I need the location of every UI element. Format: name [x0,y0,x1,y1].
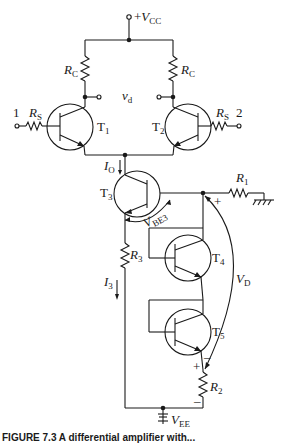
svg-text:RS: RS [28,105,42,122]
svg-text:–: – [203,349,211,364]
current-io: IO [103,158,122,175]
figure-caption: FIGURE 7.3 A differential amplifier with… [2,432,195,443]
svg-text:IO: IO [103,158,115,175]
input-1-label: 1 [13,105,20,120]
svg-text:+VCC: +VCC [134,9,161,26]
input-2-label: 2 [236,105,243,120]
svg-text:T1: T1 [97,119,109,136]
transistor-t2: T2 [152,97,211,155]
resistor-r3: R3 [121,213,143,408]
svg-text:R1: R1 [235,170,248,187]
transistor-t1: T1 [47,97,109,155]
svg-text:T2: T2 [152,119,164,136]
svg-text:+: + [193,359,200,374]
resistor-rc-right: RC [169,40,195,97]
resistor-rc-left: RC [63,40,89,97]
svg-text:I3: I3 [103,274,113,291]
voltage-vd: + VD – [203,194,251,369]
svg-text:R2: R2 [209,379,222,396]
svg-text:+: + [214,194,221,209]
resistor-rs-left: 1 RS [13,105,47,130]
resistor-r1: R1 [203,170,264,200]
svg-text:vd: vd [122,88,133,105]
svg-text:VD: VD [236,271,251,288]
svg-text:–: – [193,393,201,408]
vcc-supply: +VCC [85,9,173,42]
svg-text:T4: T4 [212,250,225,267]
tail-node [85,153,173,175]
svg-text:RC: RC [180,62,195,79]
transistor-t4: T4 [149,193,225,300]
svg-text:RC: RC [63,62,78,79]
svg-text:VEE: VEE [171,412,190,429]
output-vd: vd [83,88,176,105]
svg-text:R3: R3 [129,247,143,264]
vee-supply: VEE [125,406,203,429]
svg-text:T3: T3 [100,185,113,202]
ground-icon [253,200,274,205]
svg-text:RS: RS [215,105,229,122]
current-i3: I3 [103,274,119,300]
transistor-t5: T5 [149,300,225,370]
resistor-rs-right: RS 2 [211,105,243,130]
transistor-t3: T3 [100,171,205,217]
